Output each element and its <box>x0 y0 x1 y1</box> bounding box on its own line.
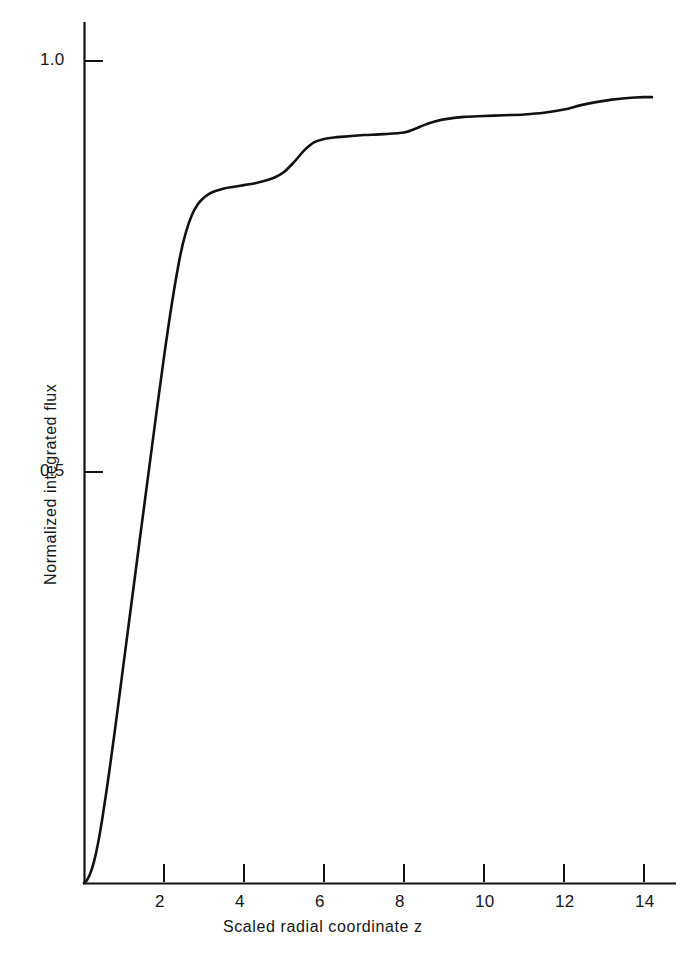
x-tick-label: 8 <box>395 892 405 912</box>
y-tick-label-1-0: 1.0 <box>40 50 65 70</box>
x-tick-marks <box>164 864 644 882</box>
x-tick-label: 2 <box>155 892 165 912</box>
x-axis-title: Scaled radial coordinate z <box>223 918 423 936</box>
data-curve <box>84 97 652 883</box>
chart-plot-area <box>0 0 693 953</box>
figure-panel: 1.0 0.5 2468101214 Scaled radial coordin… <box>0 0 693 953</box>
y-axis-title: Normalized integrated flux <box>42 384 60 585</box>
x-tick-label: 4 <box>235 892 245 912</box>
y-tick-marks <box>85 61 103 472</box>
x-tick-label: 6 <box>315 892 325 912</box>
x-tick-label: 14 <box>635 892 655 912</box>
x-tick-label: 10 <box>475 892 495 912</box>
x-tick-label: 12 <box>555 892 575 912</box>
